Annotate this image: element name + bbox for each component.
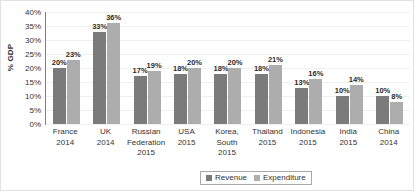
bar-revenue[interactable]: 13% (295, 12, 308, 124)
x-axis-label-line: 2015 (247, 138, 287, 149)
bar-value-label: 33% (92, 23, 107, 31)
bar-value-label: 16% (308, 70, 323, 78)
y-axis-tick: 15% (25, 79, 41, 87)
bar-value-label: 14% (349, 76, 364, 84)
x-axis-label: India2015 (328, 127, 368, 167)
x-axis-label: Thailand2015 (247, 127, 287, 167)
bar-rect (309, 79, 322, 124)
bar-value-label: 20% (52, 59, 67, 67)
chart-legend: RevenueExpenditure (200, 171, 312, 185)
bar-revenue[interactable]: 17% (134, 12, 147, 124)
bar-group: 18%21% (248, 12, 288, 124)
bar-value-label: 36% (106, 14, 121, 22)
x-axis-label-line: UK (85, 127, 125, 138)
bar-expenditure[interactable]: 20% (228, 12, 241, 124)
bar-group: 18%20% (208, 12, 248, 124)
bar-revenue[interactable]: 10% (376, 12, 389, 124)
bar-rect (134, 76, 147, 124)
bar-revenue[interactable]: 18% (174, 12, 187, 124)
gridline (46, 124, 410, 125)
x-axis-label-line: Thailand (247, 127, 287, 138)
legend-item-revenue[interactable]: Revenue (206, 173, 247, 182)
bar-rect (93, 32, 106, 124)
x-axis-label-line: 2015 (126, 148, 166, 159)
bar-groups: 20%23%33%36%17%19%18%20%18%20%18%21%13%1… (46, 12, 410, 124)
bar-value-label: 13% (294, 79, 309, 87)
x-axis-label: UK2014 (85, 127, 125, 167)
bar-group: 20%23% (46, 12, 86, 124)
bar-value-label: 18% (173, 65, 188, 73)
x-axis-label: USA2015 (166, 127, 206, 167)
y-axis-tick: 0% (29, 121, 41, 129)
x-axis-label: France2014 (45, 127, 85, 167)
bar-rect (295, 88, 308, 124)
bar-rect (53, 68, 66, 124)
bar-rect (214, 74, 227, 124)
y-axis-tick: 40% (25, 9, 41, 17)
bar-group: 13%16% (289, 12, 329, 124)
bar-value-label: 20% (227, 59, 242, 67)
bar-group: 17%19% (127, 12, 167, 124)
bar-rect (174, 74, 187, 124)
bar-revenue[interactable]: 18% (255, 12, 268, 124)
x-axis-label: Indonesia2015 (288, 127, 328, 167)
bar-expenditure[interactable]: 36% (107, 12, 120, 124)
x-axis-category-labels: France2014UK2014RussianFederation2015USA… (45, 127, 409, 167)
bar-expenditure[interactable]: 20% (188, 12, 201, 124)
y-axis-tick: 10% (25, 93, 41, 101)
x-axis-label: RussianFederation2015 (126, 127, 166, 167)
y-axis-tick: 35% (25, 23, 41, 31)
x-axis-label-line: 2014 (85, 138, 125, 149)
bar-rect (350, 85, 363, 124)
legend-item-expenditure[interactable]: Expenditure (254, 173, 306, 182)
x-axis-label-line: 2015 (207, 148, 247, 159)
chart-container: % GDP 40%35%30%25%20%15%10%5%0% 20%23%33… (0, 0, 414, 191)
bar-expenditure[interactable]: 21% (269, 12, 282, 124)
bar-value-label: 8% (391, 93, 402, 101)
legend-swatch-icon (206, 175, 212, 181)
bar-expenditure[interactable]: 16% (309, 12, 322, 124)
x-axis-label-line: France (45, 127, 85, 138)
bar-rect (228, 68, 241, 124)
bar-value-label: 21% (268, 56, 283, 64)
bar-value-label: 19% (147, 62, 162, 70)
bar-group: 18%20% (167, 12, 207, 124)
legend-label: Revenue (215, 173, 247, 182)
legend-swatch-icon (254, 175, 260, 181)
bar-revenue[interactable]: 10% (336, 12, 349, 124)
bar-value-label: 18% (254, 65, 269, 73)
bar-revenue[interactable]: 33% (93, 12, 106, 124)
bar-rect (107, 23, 120, 124)
bar-rect (148, 71, 161, 124)
x-axis-label-line: South (207, 138, 247, 149)
plot-area: 20%23%33%36%17%19%18%20%18%20%18%21%13%1… (45, 12, 410, 125)
x-axis-label-line: India (328, 127, 368, 138)
bar-rect (376, 96, 389, 124)
x-axis-label-line: USA (166, 127, 206, 138)
bar-rect (336, 96, 349, 124)
bar-value-label: 23% (66, 51, 81, 59)
bar-expenditure[interactable]: 8% (390, 12, 403, 124)
bar-group: 10%8% (370, 12, 410, 124)
bar-expenditure[interactable]: 14% (350, 12, 363, 124)
bar-value-label: 10% (335, 87, 350, 95)
bar-value-label: 10% (375, 87, 390, 95)
bar-revenue[interactable]: 20% (53, 12, 66, 124)
y-axis-tick: 30% (25, 37, 41, 45)
bar-value-label: 18% (213, 65, 228, 73)
x-axis-label-line: 2015 (166, 138, 206, 149)
bar-group: 33%36% (86, 12, 126, 124)
x-axis-label-line: 2015 (288, 138, 328, 149)
bar-revenue[interactable]: 18% (214, 12, 227, 124)
bar-rect (188, 68, 201, 124)
bar-group: 10%14% (329, 12, 369, 124)
bar-expenditure[interactable]: 19% (148, 12, 161, 124)
bar-rect (390, 102, 403, 124)
bar-rect (67, 60, 80, 124)
x-axis-label: Korea,South2015 (207, 127, 247, 167)
y-axis-tick: 20% (25, 65, 41, 73)
bar-value-label: 20% (187, 59, 202, 67)
x-axis-label-line: 2014 (45, 138, 85, 149)
x-axis-label-line: Federation (126, 138, 166, 149)
bar-expenditure[interactable]: 23% (67, 12, 80, 124)
